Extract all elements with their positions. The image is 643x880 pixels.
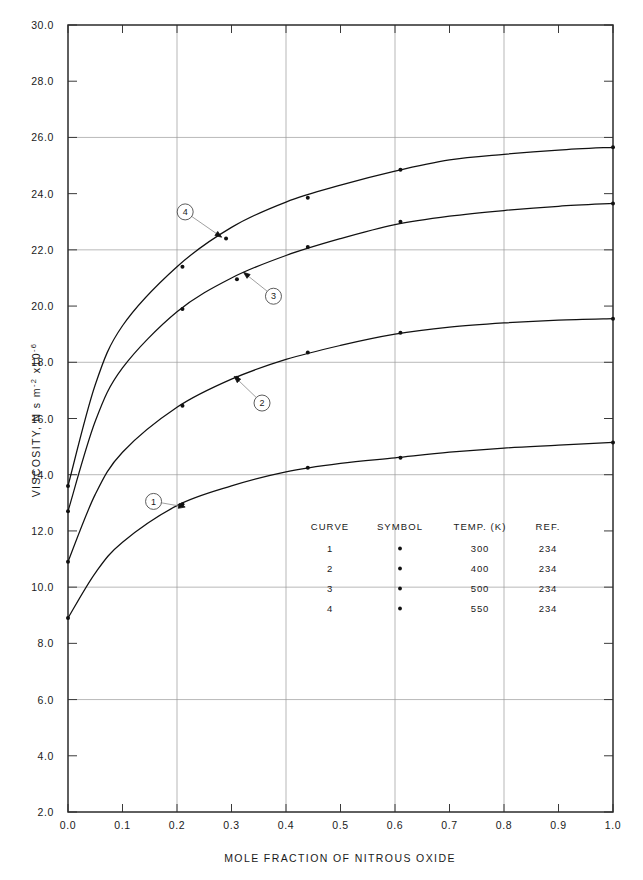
x-tick-label: 1.0 xyxy=(605,819,621,831)
y-tick-label: 6.0 xyxy=(38,694,54,706)
y-tick-label: 24.0 xyxy=(31,188,54,200)
y-tick-label: 8.0 xyxy=(38,637,54,649)
data-point-marker xyxy=(180,307,184,311)
legend-header: SYMBOL xyxy=(377,521,423,532)
x-tick-label: 0.6 xyxy=(387,819,403,831)
data-point-marker xyxy=(180,404,184,408)
legend-temperature: 400 xyxy=(471,563,490,574)
y-axis-title-mid: x10 xyxy=(30,352,42,373)
data-point-marker xyxy=(398,456,402,460)
x-tick-label: 0.4 xyxy=(278,819,294,831)
y-tick-label: 26.0 xyxy=(31,131,54,143)
data-point-marker xyxy=(235,277,239,281)
x-tick-label: 0.0 xyxy=(60,819,76,831)
data-point-marker xyxy=(306,466,310,470)
callout-label-1: 1 xyxy=(151,497,156,507)
legend-curve-number: 4 xyxy=(327,603,333,614)
legend-symbol-marker xyxy=(398,547,402,551)
legend-temperature: 500 xyxy=(471,583,490,594)
legend-curve-number: 2 xyxy=(327,563,333,574)
y-axis-title: VISCOSITY, N s m-2 x10-6 xyxy=(29,343,42,498)
viscosity-chart: 0.00.10.20.30.40.50.60.70.80.91.0 2.04.0… xyxy=(0,0,643,880)
legend-curve-number: 3 xyxy=(327,583,333,594)
x-tick-label: 0.3 xyxy=(223,819,239,831)
figure-container: 0.00.10.20.30.40.50.60.70.80.91.0 2.04.0… xyxy=(0,0,643,880)
y-tick-label: 30.0 xyxy=(31,19,54,31)
x-axis-title-text: MOLE FRACTION OF NITROUS OXIDE xyxy=(224,852,456,864)
data-point-marker xyxy=(611,145,615,149)
x-tick-label: 0.2 xyxy=(169,819,185,831)
x-tick-label: 0.9 xyxy=(550,819,566,831)
chart-background xyxy=(0,0,643,880)
data-point-marker xyxy=(66,484,70,488)
data-point-marker xyxy=(398,220,402,224)
legend-temperature: 300 xyxy=(471,543,490,554)
x-tick-label: 0.1 xyxy=(114,819,130,831)
data-point-marker xyxy=(398,331,402,335)
legend-symbol-marker xyxy=(398,587,402,591)
y-axis-title-prefix: VISCOSITY, N s m xyxy=(30,387,42,497)
data-point-marker xyxy=(611,317,615,321)
legend-reference: 234 xyxy=(539,543,558,554)
data-point-marker xyxy=(66,616,70,620)
y-tick-label: 2.0 xyxy=(38,806,54,818)
legend-header: TEMP. (K) xyxy=(453,521,506,532)
x-tick-label: 0.7 xyxy=(441,819,457,831)
y-tick-label: 20.0 xyxy=(31,300,54,312)
x-axis-title: MOLE FRACTION OF NITROUS OXIDE xyxy=(224,852,456,864)
data-point-marker xyxy=(306,196,310,200)
callout-label-4: 4 xyxy=(183,207,188,217)
legend-temperature: 550 xyxy=(471,603,490,614)
y-axis-title-exponent-2: -6 xyxy=(29,343,38,352)
legend-header: CURVE xyxy=(311,521,350,532)
legend-header: REF. xyxy=(536,521,561,532)
x-tick-label: 0.5 xyxy=(332,819,348,831)
y-tick-label: 12.0 xyxy=(31,525,54,537)
legend-curve-number: 1 xyxy=(327,543,333,554)
y-tick-label: 4.0 xyxy=(38,750,54,762)
legend-symbol-marker xyxy=(398,607,402,611)
data-point-marker xyxy=(306,245,310,249)
callout-label-2: 2 xyxy=(260,398,265,408)
legend-symbol-marker xyxy=(398,567,402,571)
data-point-marker xyxy=(224,237,228,241)
data-point-marker xyxy=(611,440,615,444)
data-point-marker xyxy=(398,168,402,172)
y-tick-label: 22.0 xyxy=(31,244,54,256)
y-tick-label: 28.0 xyxy=(31,75,54,87)
data-point-marker xyxy=(611,201,615,205)
legend-reference: 234 xyxy=(539,563,558,574)
legend-reference: 234 xyxy=(539,603,558,614)
legend-reference: 234 xyxy=(539,583,558,594)
y-tick-label: 10.0 xyxy=(31,581,54,593)
callout-label-3: 3 xyxy=(271,291,276,301)
y-axis-title-text: VISCOSITY, N s m-2 x10-6 xyxy=(29,343,42,498)
x-tick-label: 0.8 xyxy=(496,819,512,831)
data-point-marker xyxy=(180,265,184,269)
data-point-marker xyxy=(306,350,310,354)
data-point-marker xyxy=(66,560,70,564)
y-axis-title-exponent-1: -2 xyxy=(29,378,38,387)
data-point-marker xyxy=(66,509,70,513)
